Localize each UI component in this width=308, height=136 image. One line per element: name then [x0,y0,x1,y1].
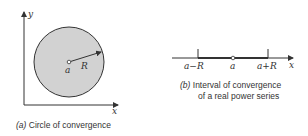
caption-b-line2: of a real power series [198,91,279,101]
center-label: a [65,65,70,75]
y-axis-label: y [27,9,34,19]
figure-canvas: y x a R a−R a a+R x [0,0,308,136]
panel-b-diagram: a−R a a+R x [172,49,294,71]
caption-b-line1: (b) Interval of convergence [180,80,281,90]
center-point [67,60,71,64]
caption-a: (a) Circle of convergence [16,120,111,130]
left-endpoint-label: a−R [184,61,204,71]
x-axis-label: x [112,106,117,116]
caption-b-tag: (b) [180,80,190,90]
caption-a-text: Circle of convergence [29,120,111,130]
x-axis-label-b: x [289,60,294,70]
radius-label: R [80,61,88,71]
caption-b-text-1: Interval of convergence [193,80,281,90]
caption-a-tag: (a) [16,120,26,130]
caption-b-text-2: of a real power series [198,91,279,101]
panel-a-diagram: y x a R [24,9,118,116]
interval-center-point [231,56,235,60]
center-label-b: a [230,61,235,71]
right-endpoint-label: a+R [257,61,277,71]
